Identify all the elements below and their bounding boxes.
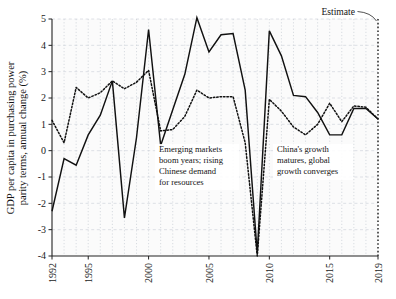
emerging-markets-note-line-1: Emerging markets	[159, 144, 223, 154]
x-axis-ticks: 1992199520002005201020152019	[47, 256, 384, 283]
y-tick-label: 5	[41, 13, 46, 24]
y-axis-ticks: 543210-1-2-3-4	[38, 13, 52, 261]
china-growth-note: China's growth matures, global growth co…	[273, 144, 353, 180]
china-growth-note-line-3: growth converges	[277, 166, 339, 176]
x-tick-label: 2005	[204, 263, 215, 283]
y-tick-label: 4	[41, 40, 46, 51]
y-axis-title-line-1: GDP per capita in purchasing power	[5, 61, 16, 214]
x-tick-label: 1995	[83, 263, 94, 283]
chart-figure: 543210-1-2-3-4 1992199520002005201020152…	[0, 0, 396, 299]
y-tick-label: 1	[41, 119, 46, 130]
y-tick-label: 2	[41, 92, 46, 103]
y-tick-label: -3	[38, 224, 46, 235]
china-growth-note-line-2: matures, global	[277, 155, 331, 165]
x-tick-label: 2015	[324, 263, 335, 283]
emerging-markets-note: Emerging markets boom years; rising Chin…	[155, 144, 239, 190]
x-tick-label: 2010	[264, 263, 275, 283]
estimate-label: Estimate	[321, 6, 355, 17]
y-axis-title: GDP per capita in purchasing power parit…	[5, 61, 29, 214]
emerging-markets-note-line-4: for resources	[159, 177, 204, 187]
x-tick-label: 2019	[373, 263, 384, 283]
gdp-per-capita-line-chart: 543210-1-2-3-4 1992199520002005201020152…	[0, 0, 396, 299]
y-tick-label: 3	[41, 66, 46, 77]
y-tick-label: -1	[38, 171, 46, 182]
y-tick-label: -2	[38, 198, 46, 209]
y-tick-label: -4	[38, 250, 46, 261]
y-axis-title-line-2: parity terms, annual change (%)	[17, 70, 29, 205]
emerging-markets-note-line-3: Chinese demand	[159, 166, 217, 176]
y-tick-label: 0	[41, 145, 46, 156]
x-tick-label: 1992	[47, 263, 58, 283]
plot-area-background	[52, 19, 378, 256]
china-growth-note-line-1: China's growth	[277, 144, 330, 154]
emerging-markets-note-line-2: boom years; rising	[159, 155, 224, 165]
x-tick-label: 2000	[143, 263, 154, 283]
